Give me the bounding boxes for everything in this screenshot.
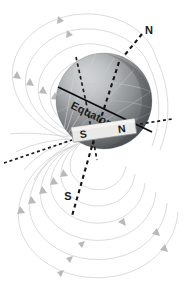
magnetic-field-figure: Equator S N N S	[0, 0, 190, 292]
geographic-north-label: N	[145, 24, 153, 36]
field-line-right-sweep-1	[156, 58, 168, 150]
diagram-canvas: Equator S N N S	[0, 0, 190, 292]
magnetic-axis-south-segment	[72, 146, 92, 216]
field-line-lower-4	[50, 143, 145, 226]
geographic-south-label: S	[64, 190, 71, 202]
field-line-lower-1	[17, 146, 178, 278]
field-line-lower-2	[28, 145, 167, 263]
